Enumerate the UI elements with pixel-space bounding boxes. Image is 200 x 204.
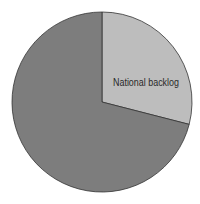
pie-chart xyxy=(0,0,200,204)
slice-label-national-backlog: National backlog xyxy=(113,76,179,88)
pie-slices xyxy=(12,12,192,192)
